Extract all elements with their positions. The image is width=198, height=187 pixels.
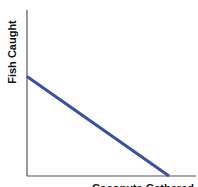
series-layer (27, 76, 169, 176)
x-axis-label: Coconuts Gathered (92, 182, 194, 187)
chart: Fish Caught Coconuts Gathered (0, 0, 198, 187)
series-line-0 (27, 76, 169, 176)
y-axis-label: Fish Caught (6, 20, 18, 84)
